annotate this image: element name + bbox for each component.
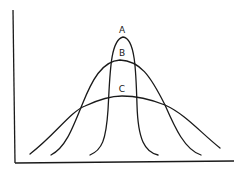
label-c: C xyxy=(119,84,125,94)
curve-c xyxy=(30,96,220,154)
y-axis xyxy=(13,10,15,163)
label-b: B xyxy=(119,48,125,58)
distribution-diagram: A B C xyxy=(0,0,243,175)
x-axis xyxy=(15,161,234,163)
curve-b xyxy=(51,60,201,155)
label-a: A xyxy=(119,25,126,35)
